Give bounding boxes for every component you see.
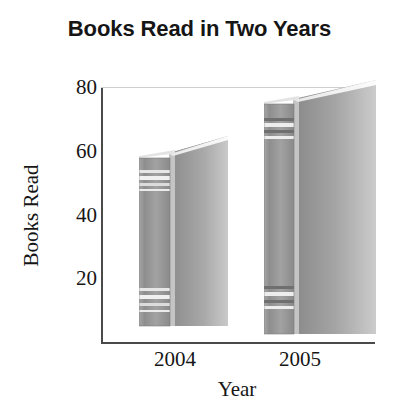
y-tick-20: 20 (51, 268, 97, 289)
x-tick-2004: 2004 (120, 347, 230, 372)
y-tick-60: 60 (51, 141, 97, 162)
y-axis-title: Books Read (19, 164, 44, 266)
y-axis-ticks: 80 60 40 20 (44, 0, 97, 416)
chart-container: Books Read in Two Years Books Read (0, 0, 399, 416)
y-tick-40: 40 (51, 205, 97, 226)
x-axis-title: Year (101, 377, 373, 402)
book-2005-depth (298, 80, 376, 334)
bar-2005[interactable] (264, 80, 376, 342)
bar-2004[interactable] (139, 136, 267, 342)
plot-area (101, 88, 375, 344)
x-tick-2005: 2005 (245, 347, 355, 372)
y-axis-title-container: Books Read (18, 88, 44, 342)
y-tick-80: 80 (51, 77, 97, 98)
